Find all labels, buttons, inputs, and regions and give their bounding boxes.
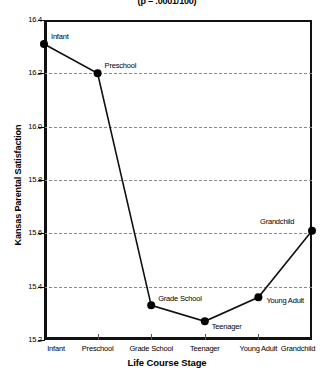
y-tick-label: 15.8 [12, 176, 42, 184]
x-tick-mark [205, 334, 206, 340]
data-point-label: Grade School [158, 294, 201, 303]
x-tick-label: Grade School [129, 344, 172, 353]
y-tick-label: 16.2 [12, 69, 42, 77]
y-axis-title: Kansas Parental Satisfaction [13, 85, 23, 285]
y-tick-label: 16.0 [12, 123, 42, 131]
x-tick-mark [151, 334, 152, 340]
data-point-label: Preschool [105, 61, 137, 70]
x-tick-mark [98, 334, 99, 340]
y-tick-label: 15.6 [12, 229, 42, 237]
chart-figure: (p = .0001/100) Kansas Parental Satisfac… [0, 0, 334, 374]
chart-title: (p = .0001/100) [0, 0, 334, 6]
gridline [44, 127, 312, 128]
x-tick-mark [258, 334, 259, 340]
y-tick-label: 15.2 [12, 336, 42, 344]
x-tick-label: Preschool [82, 344, 114, 353]
y-tick-label: 16.4 [12, 16, 42, 24]
gridline [44, 287, 312, 288]
gridline [44, 180, 312, 181]
data-point-label: Young Adult [266, 296, 304, 305]
data-point-label: Grandchild [260, 217, 294, 226]
x-tick-label: Infant [47, 344, 65, 353]
data-point-label: Teenager [212, 322, 242, 331]
x-tick-label: Young Adult [240, 344, 278, 353]
x-tick-label: Teenager [190, 344, 220, 353]
x-tick-label: Grandchild [281, 344, 315, 353]
gridline [44, 233, 312, 234]
data-point-label: Infant [51, 32, 69, 41]
y-tick-label: 15.4 [12, 283, 42, 291]
x-axis-title: Life Course Stage [0, 357, 334, 368]
gridline [44, 73, 312, 74]
